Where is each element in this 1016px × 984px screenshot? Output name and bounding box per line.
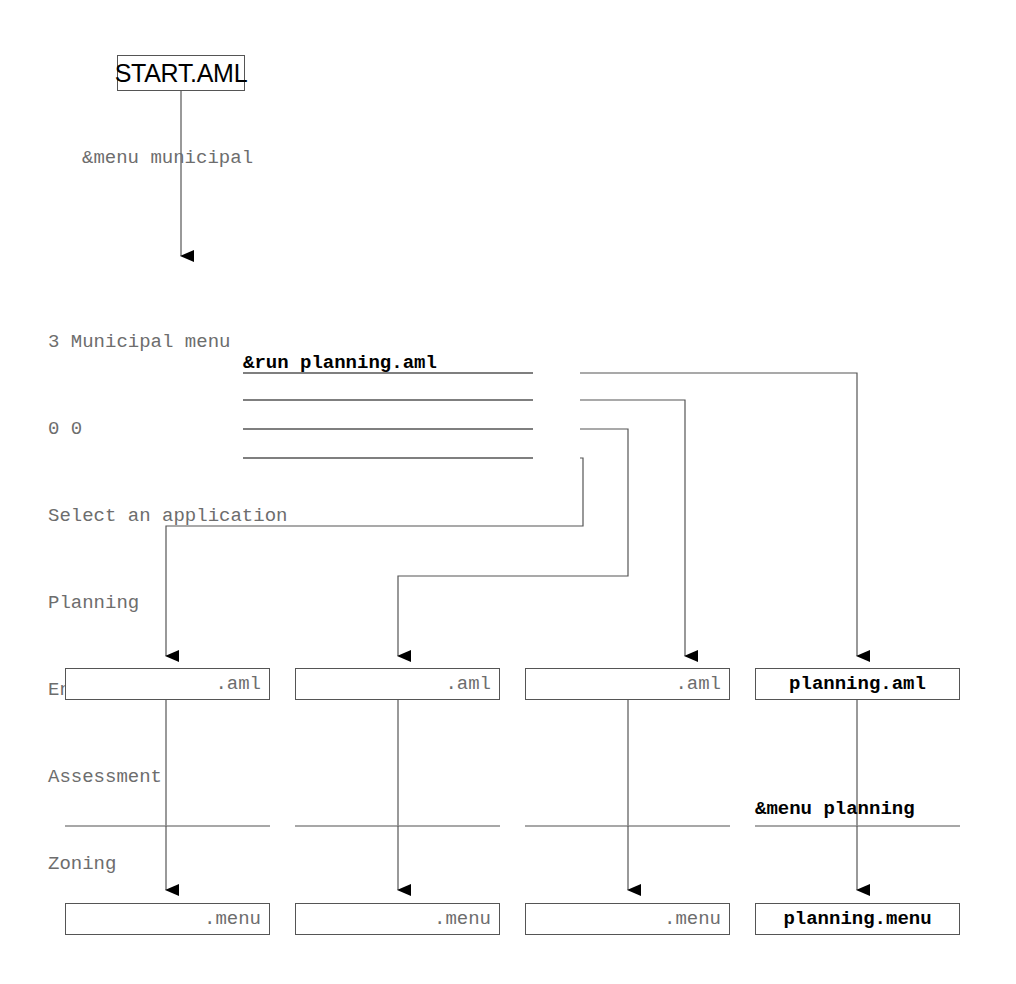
node-menu-1[interactable]: .menu bbox=[65, 903, 270, 935]
node-menu-3[interactable]: .menu bbox=[525, 903, 730, 935]
edge-engineering-to-aml3 bbox=[580, 400, 685, 656]
edge-planning-to-aml4 bbox=[580, 373, 857, 656]
node-start-aml[interactable]: START.AML bbox=[117, 55, 245, 91]
edge-assessment-to-aml2 bbox=[398, 429, 628, 656]
node-menu-planning-label: planning.menu bbox=[783, 908, 931, 930]
node-start-aml-label: START.AML bbox=[115, 59, 248, 88]
node-aml-2[interactable]: .aml bbox=[295, 668, 500, 700]
node-aml-1-label: .aml bbox=[215, 673, 261, 695]
node-menu-1-label: .menu bbox=[204, 908, 261, 930]
menu-option-zoning[interactable]: Zoning bbox=[48, 850, 287, 879]
diagram-canvas: START.AML &menu municipal 3 Municipal me… bbox=[0, 0, 1016, 984]
node-aml-1[interactable]: .aml bbox=[65, 668, 270, 700]
node-aml-2-label: .aml bbox=[445, 673, 491, 695]
edge-label-menu-municipal: &menu municipal bbox=[82, 147, 253, 169]
menu-line-coords: 0 0 bbox=[48, 415, 287, 444]
node-menu-2[interactable]: .menu bbox=[295, 903, 500, 935]
node-aml-planning[interactable]: planning.aml bbox=[755, 668, 960, 700]
node-aml-3[interactable]: .aml bbox=[525, 668, 730, 700]
menu-command-planning: &run planning.aml bbox=[243, 352, 437, 374]
node-aml-planning-label: planning.aml bbox=[789, 673, 926, 695]
menu-option-assessment[interactable]: Assessment bbox=[48, 763, 287, 792]
menu-option-planning[interactable]: Planning bbox=[48, 589, 287, 618]
edge-label-menu-planning: &menu planning bbox=[755, 798, 915, 820]
node-aml-3-label: .aml bbox=[675, 673, 721, 695]
node-menu-planning[interactable]: planning.menu bbox=[755, 903, 960, 935]
menu-line-prompt: Select an application bbox=[48, 502, 287, 531]
node-menu-3-label: .menu bbox=[664, 908, 721, 930]
node-menu-2-label: .menu bbox=[434, 908, 491, 930]
